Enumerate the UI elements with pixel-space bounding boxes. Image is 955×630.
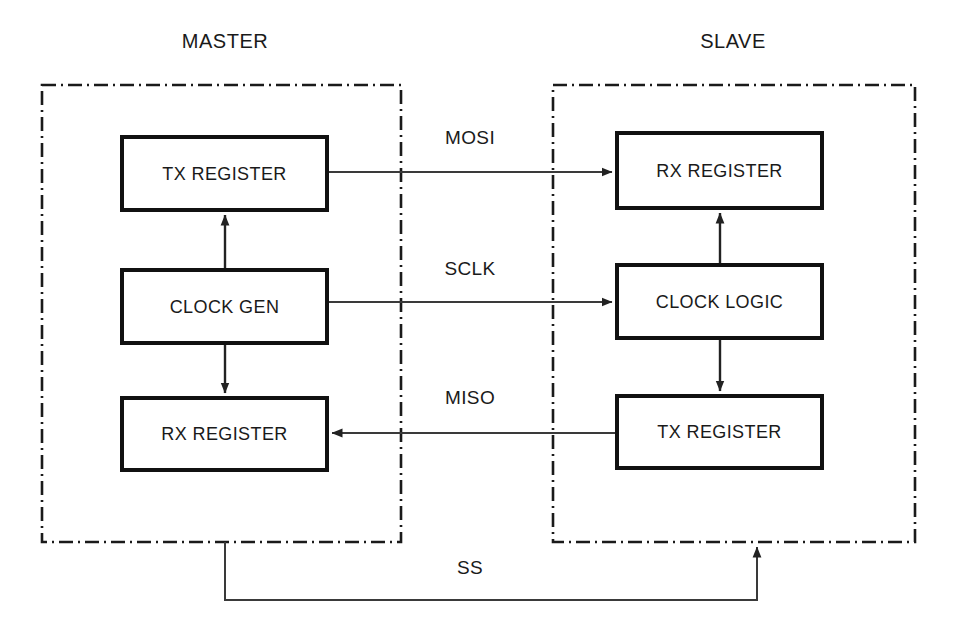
diagram-canvas: MASTER SLAVE MOSI SCLK MISO SS TX REGIST… [0,0,955,630]
master-rx-register-label: RX REGISTER [161,424,287,444]
ss-wire [225,542,757,600]
spi-block-diagram: MASTER SLAVE MOSI SCLK MISO SS TX REGIST… [0,0,955,630]
signal-label-ss: SS [457,557,483,578]
signal-label-mosi: MOSI [445,127,495,148]
signal-label-miso: MISO [445,387,495,408]
master-tx-register-label: TX REGISTER [162,164,286,184]
master-rx-register-block[interactable]: RX REGISTER [122,398,327,470]
slave-rx-register-block[interactable]: RX REGISTER [617,133,822,208]
slave-rx-register-label: RX REGISTER [656,161,782,181]
master-title: MASTER [182,30,268,52]
slave-title: SLAVE [700,30,766,52]
master-clock-gen-block[interactable]: CLOCK GEN [122,270,327,343]
slave-clock-logic-block[interactable]: CLOCK LOGIC [617,265,822,338]
slave-tx-register-label: TX REGISTER [657,422,781,442]
signal-label-sclk: SCLK [444,258,495,279]
master-tx-register-block[interactable]: TX REGISTER [122,137,327,210]
slave-clock-logic-label: CLOCK LOGIC [656,292,783,312]
slave-tx-register-block[interactable]: TX REGISTER [617,396,822,468]
master-clock-gen-label: CLOCK GEN [170,297,280,317]
